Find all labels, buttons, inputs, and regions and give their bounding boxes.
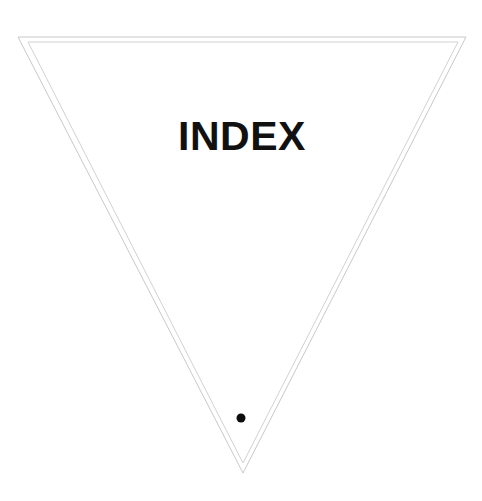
triangle-artwork bbox=[0, 0, 482, 501]
page-title: INDEX bbox=[0, 111, 482, 161]
inner-triangle-outline bbox=[28, 42, 458, 463]
artboard: INDEX bbox=[0, 0, 482, 501]
page-title-text: INDEX bbox=[178, 111, 306, 161]
outer-triangle-outline bbox=[18, 37, 466, 473]
dot-marker bbox=[237, 414, 246, 423]
